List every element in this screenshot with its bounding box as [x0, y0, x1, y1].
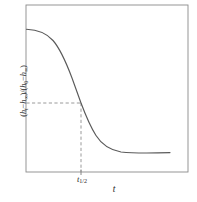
y-axis-label-h1: h: [18, 110, 28, 114]
y-axis-label: (ht−h∞)/(h0−h∞): [16, 31, 30, 151]
y-axis-label-h2-sub: ∞: [23, 96, 29, 100]
y-axis-label-h1-sub: t: [23, 108, 29, 110]
y-axis-label-minus2: −: [18, 76, 28, 81]
y-axis-label-open1: (: [18, 114, 28, 117]
y-axis-label-h3-sub: 0: [23, 81, 29, 84]
y-axis-label-h4-sub: ∞: [23, 68, 29, 72]
x-axis-tick-label-thalf: t1/2: [68, 174, 96, 184]
y-axis-label-close2: ): [18, 65, 28, 68]
y-axis-label-close1: )/(: [18, 88, 28, 96]
y-axis-label-h2: h: [18, 100, 28, 104]
y-axis-label-h3: h: [18, 84, 28, 88]
x-tick-subscript: 1/2: [79, 178, 87, 184]
y-axis-label-minus1: −: [18, 104, 28, 109]
y-axis-label-h4: h: [18, 72, 28, 76]
figure-container: (ht−h∞)/(h0−h∞) t1/2 t: [0, 0, 197, 202]
x-axis-label: t: [106, 184, 122, 194]
